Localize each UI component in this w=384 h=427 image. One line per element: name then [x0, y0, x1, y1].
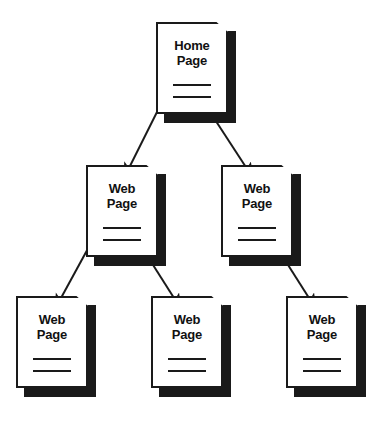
page-document-icon [151, 296, 223, 388]
node-label-line-1: Web [309, 312, 336, 327]
page-text-rule-1 [168, 358, 206, 360]
node-web-page-1[interactable]: WebPage [86, 165, 158, 257]
node-label-line-1: Web [109, 181, 136, 196]
page-document-icon [221, 165, 293, 257]
page-text-rule-2 [103, 239, 141, 241]
page-document-icon [156, 22, 228, 114]
node-label-line-2: Page [37, 327, 67, 342]
page-document-icon [16, 296, 88, 388]
page-document-icon [86, 165, 158, 257]
page-text-rule-2 [173, 96, 211, 98]
page-text-rule-2 [238, 239, 276, 241]
node-web-page-2[interactable]: WebPage [221, 165, 293, 257]
node-label-line-2: Page [242, 196, 272, 211]
page-text-rule-1 [238, 227, 276, 229]
node-label-line-1: Web [244, 181, 271, 196]
node-label: WebPage [16, 312, 88, 342]
page-text-rule-2 [303, 370, 341, 372]
node-label: WebPage [151, 312, 223, 342]
page-text-rule-1 [303, 358, 341, 360]
node-label: HomePage [156, 38, 228, 68]
node-label-line-1: Web [39, 312, 66, 327]
node-web-page-4[interactable]: WebPage [151, 296, 223, 388]
node-label: WebPage [286, 312, 358, 342]
node-home-page[interactable]: HomePage [156, 22, 228, 114]
page-document-icon [286, 296, 358, 388]
node-label-line-2: Page [307, 327, 337, 342]
page-text-rule-1 [173, 84, 211, 86]
page-text-rule-1 [103, 227, 141, 229]
node-label-line-2: Page [107, 196, 137, 211]
page-text-rule-2 [33, 370, 71, 372]
page-text-rule-2 [168, 370, 206, 372]
node-label-line-2: Page [177, 53, 207, 68]
node-label-line-2: Page [172, 327, 202, 342]
node-label-line-1: Web [174, 312, 201, 327]
site-hierarchy-diagram: HomePage WebPage WebPage WebPage WebPage… [0, 0, 384, 427]
node-web-page-3[interactable]: WebPage [16, 296, 88, 388]
node-label: WebPage [86, 181, 158, 211]
page-text-rule-1 [33, 358, 71, 360]
node-web-page-5[interactable]: WebPage [286, 296, 358, 388]
node-label-line-1: Home [174, 38, 209, 53]
node-label: WebPage [221, 181, 293, 211]
